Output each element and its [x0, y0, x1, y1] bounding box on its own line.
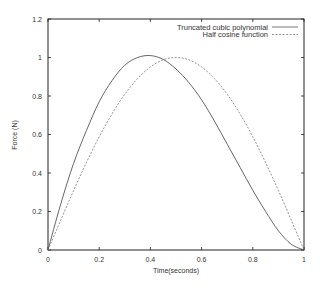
- half-cosine-line: [48, 58, 304, 251]
- y-tick-label: 0.2: [32, 208, 42, 215]
- series-lines: [48, 55, 304, 250]
- plot-frame: [48, 19, 304, 250]
- y-tick-label: 1.2: [32, 16, 42, 23]
- axis-ticks: 00.20.40.60.8100.20.40.60.811.2: [32, 16, 306, 264]
- legend: Truncated cubic polynomialHalf cosine fu…: [177, 23, 298, 40]
- x-tick-label: 0: [46, 256, 50, 263]
- truncated-cubic-line: [48, 55, 304, 250]
- y-tick-label: 0: [38, 247, 42, 254]
- y-tick-label: 1: [38, 54, 42, 61]
- legend-label: Half cosine function: [203, 30, 268, 39]
- x-axis-title: Time(seconds): [153, 267, 199, 275]
- x-tick-label: 0.2: [94, 256, 104, 263]
- y-tick-label: 0.8: [32, 93, 42, 100]
- x-tick-label: 1: [302, 256, 306, 263]
- y-tick-label: 0.6: [32, 131, 42, 138]
- x-tick-label: 0.8: [248, 256, 258, 263]
- x-tick-label: 0.6: [197, 256, 207, 263]
- chart: 00.20.40.60.8100.20.40.60.811.2 Truncate…: [0, 0, 321, 290]
- x-tick-label: 0.4: [146, 256, 156, 263]
- y-axis-title: Force (N): [11, 120, 19, 150]
- y-tick-label: 0.4: [32, 170, 42, 177]
